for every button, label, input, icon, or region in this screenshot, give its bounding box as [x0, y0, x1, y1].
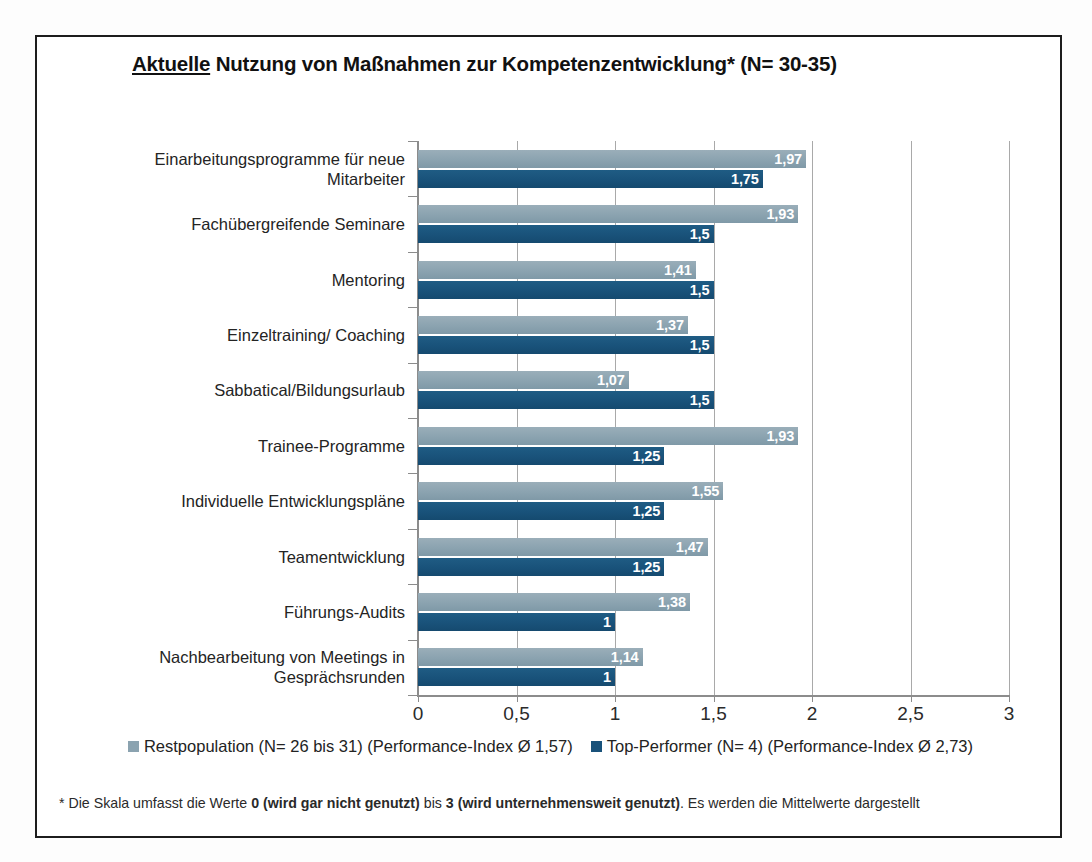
y-axis-tick: [408, 418, 417, 419]
category-label: Sabbatical/Bildungsurlaub: [87, 380, 405, 400]
bar-value-label: 1,93: [766, 428, 794, 444]
footnote-post: . Es werden die Mittelwerte dargestellt: [680, 795, 920, 811]
bar-restpopulation[interactable]: 1,47: [418, 538, 708, 556]
x-axis-tick-label: 1,5: [700, 703, 726, 725]
bar-restpopulation[interactable]: 1,55: [418, 482, 723, 500]
bar-restpopulation[interactable]: 1,97: [418, 150, 806, 168]
category-label: Trainee-Programme: [87, 436, 405, 456]
bar-value-label: 1,14: [611, 649, 639, 665]
y-axis-tick: [408, 307, 417, 308]
bar-top-performer[interactable]: 1,5: [418, 391, 714, 409]
legend-entry-top-performer[interactable]: Top-Performer (N= 4) (Performance-Index …: [591, 737, 973, 756]
footnote-bold-low: 0 (wird gar nicht genutzt): [251, 795, 420, 811]
y-axis-tick: [408, 196, 417, 197]
footnote-bold-high: 3 (wird unternehmensweit genutzt): [446, 795, 680, 811]
bar-top-performer[interactable]: 1,5: [418, 281, 714, 299]
bar-restpopulation[interactable]: 1,38: [418, 593, 690, 611]
bar-top-performer[interactable]: 1,25: [418, 447, 664, 465]
bar-value-label: 1,75: [731, 171, 759, 187]
chart-frame: Aktuelle Nutzung von Maßnahmen zur Kompe…: [35, 35, 1062, 838]
category-label: Führungs-Audits: [87, 602, 405, 622]
bar-top-performer[interactable]: 1,25: [418, 502, 664, 520]
category-label: Einarbeitungsprogramme für neueMitarbeit…: [87, 149, 405, 189]
bar-chart: 1,971,751,931,51,411,51,371,51,071,51,93…: [37, 109, 1064, 729]
bar-row: 1,5: [418, 336, 1009, 354]
bar-top-performer[interactable]: 1,5: [418, 336, 714, 354]
x-axis-tick: [1009, 695, 1010, 702]
y-axis-tick: [408, 584, 417, 585]
bar-top-performer[interactable]: 1,75: [418, 170, 763, 188]
category-label: Teamentwicklung: [87, 547, 405, 567]
bar-row: 1,25: [418, 502, 1009, 520]
legend-entry-restpopulation[interactable]: Restpopulation (N= 26 bis 31) (Performan…: [128, 737, 573, 756]
bar-value-label: 1,5: [690, 282, 710, 298]
bar-value-label: 1: [603, 614, 611, 630]
bar-row: 1,07: [418, 371, 1009, 389]
bar-value-label: 1,47: [676, 539, 704, 555]
footnote-pre: * Die Skala umfasst die Werte: [59, 795, 251, 811]
bar-row: 1: [418, 613, 1009, 631]
bar-value-label: 1,41: [664, 262, 692, 278]
bar-value-label: 1,07: [597, 372, 625, 388]
x-axis-tick-label: 2: [807, 703, 818, 725]
bar-row: 1,5: [418, 281, 1009, 299]
gridline: [812, 141, 813, 695]
bar-top-performer[interactable]: 1,5: [418, 225, 714, 243]
bar-value-label: 1,5: [690, 392, 710, 408]
category-label: Fachübergreifende Seminare: [87, 214, 405, 234]
bar-restpopulation[interactable]: 1,07: [418, 371, 629, 389]
x-axis-tick: [812, 695, 813, 702]
title-underlined-word: Aktuelle: [132, 52, 210, 75]
chart-page: Aktuelle Nutzung von Maßnahmen zur Kompe…: [0, 0, 1092, 862]
footnote-mid: bis: [420, 795, 446, 811]
bar-value-label: 1,5: [690, 226, 710, 242]
bar-value-label: 1,37: [656, 317, 684, 333]
category-label: Individuelle Entwicklungspläne: [87, 491, 405, 511]
page-title: Aktuelle Nutzung von Maßnahmen zur Kompe…: [132, 52, 992, 86]
x-axis-tick: [517, 695, 518, 702]
bar-row: 1,47: [418, 538, 1009, 556]
category-label: Einzeltraining/ Coaching: [87, 325, 405, 345]
x-axis-tick: [615, 695, 616, 702]
legend-swatch-restpopulation-icon: [128, 741, 139, 752]
bar-restpopulation[interactable]: 1,41: [418, 261, 696, 279]
bar-row: 1,5: [418, 391, 1009, 409]
gridline: [615, 141, 616, 695]
y-axis-tick: [408, 252, 417, 253]
bar-row: 1: [418, 668, 1009, 686]
footnote: * Die Skala umfasst die Werte 0 (wird ga…: [59, 795, 1049, 811]
bar-row: 1,93: [418, 427, 1009, 445]
category-label: Mentoring: [87, 270, 405, 290]
x-axis-tick-label: 0: [413, 703, 424, 725]
y-axis-tick: [408, 640, 417, 641]
bar-top-performer[interactable]: 1,25: [418, 558, 664, 576]
bar-restpopulation[interactable]: 1,37: [418, 316, 688, 334]
gridline: [1009, 141, 1010, 695]
gridline: [714, 141, 715, 695]
gridline: [517, 141, 518, 695]
bar-row: 1,97: [418, 150, 1009, 168]
bar-value-label: 1: [603, 669, 611, 685]
bar-restpopulation[interactable]: 1,93: [418, 427, 798, 445]
bar-row: 1,37: [418, 316, 1009, 334]
chart-legend: Restpopulation (N= 26 bis 31) (Performan…: [37, 737, 1064, 756]
bar-value-label: 1,25: [632, 448, 660, 464]
bar-row: 1,25: [418, 447, 1009, 465]
bar-top-performer[interactable]: 1: [418, 613, 615, 631]
bar-restpopulation[interactable]: 1,93: [418, 205, 798, 223]
bar-restpopulation[interactable]: 1,14: [418, 648, 643, 666]
bar-row: 1,41: [418, 261, 1009, 279]
legend-label-restpopulation: Restpopulation (N= 26 bis 31) (Performan…: [144, 737, 573, 755]
y-axis-tick: [408, 141, 417, 142]
bar-row: 1,75: [418, 170, 1009, 188]
category-label: Nachbearbeitung von Meetings inGesprächs…: [87, 647, 405, 687]
y-axis-tick: [408, 695, 417, 696]
y-axis-tick: [408, 529, 417, 530]
bar-value-label: 1,25: [632, 503, 660, 519]
bar-row: 1,93: [418, 205, 1009, 223]
gridline: [911, 141, 912, 695]
bar-value-label: 1,93: [766, 206, 794, 222]
bar-row: 1,38: [418, 593, 1009, 611]
bar-top-performer[interactable]: 1: [418, 668, 615, 686]
bar-value-label: 1,97: [774, 151, 802, 167]
